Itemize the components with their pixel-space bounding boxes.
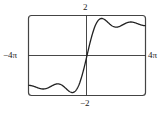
x-min-label: −4π [3, 51, 17, 60]
y-min-label: −2 [80, 99, 90, 108]
function-plot [0, 0, 165, 113]
x-max-label: 4π [148, 51, 157, 60]
y-max-label: 2 [83, 3, 88, 12]
